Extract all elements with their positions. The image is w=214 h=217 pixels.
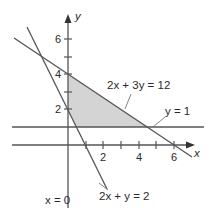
y-axis-arrow-icon: [65, 14, 72, 23]
leader-2x3y: [125, 94, 131, 109]
label-y-equals-1: y = 1: [165, 105, 190, 117]
y-tick-4: 4: [55, 68, 61, 80]
y-axis-label: y: [74, 10, 82, 22]
x-tick-4: 4: [136, 151, 142, 163]
leader-2xy: [99, 183, 108, 190]
label-x-equals-0: x = 0: [45, 194, 70, 206]
x-tick-2: 2: [100, 151, 106, 163]
graph-canvas: y x 6 4 2 2 4 6 2x + 3y = 12 y = 1 2x + …: [0, 0, 214, 217]
x-tick-6: 6: [171, 151, 177, 163]
x-axis-label: x: [193, 147, 201, 159]
leader-y1: [153, 117, 165, 127]
y-tick-2: 2: [55, 103, 61, 115]
label-2x-plus-3y-equals-12: 2x + 3y = 12: [107, 79, 170, 91]
y-tick-6: 6: [55, 33, 61, 45]
label-2x-plus-y-equals-2: 2x + y = 2: [99, 190, 150, 202]
